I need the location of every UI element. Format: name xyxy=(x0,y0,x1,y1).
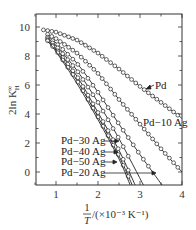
svg-text:/(×10⁻³ K⁻¹): /(×10⁻³ K⁻¹) xyxy=(92,208,149,221)
data-point xyxy=(86,85,90,89)
y-tick-4: 4 xyxy=(25,108,31,120)
data-point xyxy=(75,38,79,42)
data-point xyxy=(54,30,58,34)
data-point xyxy=(168,156,172,160)
label-pd: Pd xyxy=(155,79,167,91)
data-point xyxy=(67,35,71,39)
data-point xyxy=(147,164,151,168)
data-point xyxy=(91,93,95,97)
y-tick-10: 10 xyxy=(19,21,31,33)
data-point xyxy=(106,118,110,122)
data-point xyxy=(71,57,75,61)
data-point xyxy=(96,90,100,94)
data-point xyxy=(109,61,113,65)
data-point xyxy=(172,110,176,114)
data-point xyxy=(58,32,62,36)
svg-text:T: T xyxy=(84,214,91,226)
data-point xyxy=(113,64,117,68)
data-point xyxy=(61,48,65,52)
data-point xyxy=(63,33,67,37)
data-point xyxy=(113,92,117,96)
data-point xyxy=(106,106,110,110)
data-point xyxy=(66,52,70,56)
data-point xyxy=(117,98,121,102)
y-tick-0: 0 xyxy=(25,166,31,178)
data-point xyxy=(71,48,75,52)
data-point xyxy=(121,145,125,149)
data-point xyxy=(126,107,130,111)
data-point xyxy=(151,94,155,98)
data-point xyxy=(100,77,104,81)
svg-text:2ln KH∞: 2ln KH∞ xyxy=(6,85,21,115)
data-point xyxy=(81,78,85,82)
data-point xyxy=(130,112,134,116)
data-point xyxy=(130,78,134,82)
data-point xyxy=(121,157,125,161)
data-point xyxy=(81,69,85,73)
data-point xyxy=(155,97,159,101)
data-point xyxy=(79,41,83,45)
data-point xyxy=(71,37,75,41)
data-point xyxy=(126,136,130,140)
x-tick-3: 3 xyxy=(137,188,143,200)
data-point xyxy=(76,63,80,67)
data-point xyxy=(79,55,83,59)
data-point xyxy=(109,87,113,91)
data-point xyxy=(100,54,104,58)
svg-text:1: 1 xyxy=(84,201,90,213)
data-point xyxy=(71,64,75,68)
data-point xyxy=(121,103,125,107)
data-point xyxy=(147,91,151,95)
y-axis-title: 2ln KH∞ xyxy=(6,85,21,115)
data-point xyxy=(46,29,50,33)
data-point xyxy=(84,43,88,47)
data-point xyxy=(168,107,172,111)
data-point xyxy=(151,137,155,141)
data-point xyxy=(116,121,120,125)
data-point xyxy=(138,85,142,89)
data-point xyxy=(101,98,105,102)
data-point xyxy=(63,43,67,47)
data-point xyxy=(117,67,121,71)
data-point xyxy=(101,109,105,113)
label-pd-10ag: Pd−10 Ag xyxy=(143,116,188,128)
data-point xyxy=(75,51,79,55)
data-point xyxy=(176,165,180,169)
data-point xyxy=(134,81,138,85)
x-tick-4: 4 xyxy=(179,188,185,200)
data-point xyxy=(92,49,96,53)
data-point xyxy=(88,46,92,50)
data-point xyxy=(105,58,109,62)
data-point xyxy=(172,161,176,165)
data-point xyxy=(50,29,54,33)
data-point xyxy=(134,117,138,121)
x-tick-1: 1 xyxy=(53,188,59,200)
data-point xyxy=(84,59,88,63)
data-point xyxy=(126,154,130,158)
data-point xyxy=(111,113,115,117)
data-point xyxy=(96,101,100,105)
data-point xyxy=(88,63,92,67)
x-axis-title: 1 T /(×10⁻³ K⁻¹) xyxy=(83,201,149,226)
data-point xyxy=(67,45,71,49)
data-point xyxy=(126,74,130,78)
data-point xyxy=(76,70,80,74)
data-point xyxy=(92,67,96,71)
y-tick-2: 2 xyxy=(25,137,31,149)
data-point xyxy=(42,28,46,32)
data-point xyxy=(147,132,151,136)
data-point xyxy=(159,101,163,105)
data-point xyxy=(116,135,120,139)
data-point xyxy=(159,147,163,151)
data-point xyxy=(121,128,125,132)
chart: 0 2 4 6 8 10 1 2 3 4 2ln KH∞ 1 T /(×10⁻³… xyxy=(0,0,196,230)
data-point xyxy=(105,82,109,86)
data-point xyxy=(141,157,145,161)
data-point xyxy=(111,127,115,131)
data-point xyxy=(121,71,125,75)
data-point xyxy=(50,35,54,39)
data-point xyxy=(142,88,146,92)
data-point xyxy=(163,152,167,156)
y-tick-6: 6 xyxy=(25,79,31,91)
data-point xyxy=(163,104,167,108)
